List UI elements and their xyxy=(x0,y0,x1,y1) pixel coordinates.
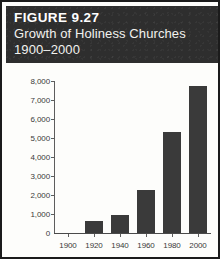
y-axis-tick: 0 xyxy=(2,228,58,239)
x-axis-tick-label: 1940 xyxy=(107,240,133,251)
y-axis-tick-mark xyxy=(51,157,55,158)
y-axis-tick-label: 2,000 xyxy=(30,190,50,201)
y-axis-tick-mark xyxy=(51,119,55,120)
x-axis-tick-label: 1980 xyxy=(159,240,185,251)
bar xyxy=(111,215,128,233)
y-axis-tick: 6,000 xyxy=(2,114,58,125)
y-axis-tick-label: 0 xyxy=(46,228,50,239)
y-axis-tick: 3,000 xyxy=(2,171,58,182)
y-axis-tick: 1,000 xyxy=(2,209,58,220)
figure-caption-band: FIGURE 9.27 Growth of Holiness Churches … xyxy=(6,6,218,63)
y-axis-tick-mark xyxy=(51,81,55,82)
y-axis-tick-label: 7,000 xyxy=(30,95,50,106)
y-axis-tick: 8,000 xyxy=(2,76,58,87)
x-axis-tick-mark xyxy=(146,234,147,237)
y-axis-tick: 7,000 xyxy=(2,95,58,106)
x-axis-tick-label: 2000 xyxy=(185,240,211,251)
x-axis-line xyxy=(54,233,211,234)
y-axis-tick-label: 4,000 xyxy=(30,152,50,163)
y-axis-tick-mark xyxy=(51,195,55,196)
x-axis-tick-mark xyxy=(94,234,95,237)
y-axis-tick-mark xyxy=(51,176,55,177)
bar xyxy=(189,86,206,233)
x-axis-tick-label: 1900 xyxy=(55,240,81,251)
y-axis-tick-label: 5,000 xyxy=(30,133,50,144)
bar-chart-plot: 01,0002,0003,0004,0005,0006,0007,0008,00… xyxy=(2,64,218,257)
x-axis-tick-mark xyxy=(120,234,121,237)
y-axis-tick: 4,000 xyxy=(2,152,58,163)
x-axis-tick-mark xyxy=(68,234,69,237)
y-axis-tick-mark xyxy=(51,214,55,215)
bar xyxy=(163,132,180,233)
y-axis-tick-mark xyxy=(51,100,55,101)
x-axis-tick-label: 1960 xyxy=(133,240,159,251)
figure-caption-line-1: Growth of Holiness Churches xyxy=(14,26,218,42)
x-axis-tick-label: 1920 xyxy=(81,240,107,251)
x-axis-tick-mark xyxy=(172,234,173,237)
y-axis-tick: 2,000 xyxy=(2,190,58,201)
y-axis-tick-mark xyxy=(51,138,55,139)
x-axis-tick-mark xyxy=(198,234,199,237)
y-axis-tick-label: 6,000 xyxy=(30,114,50,125)
figure-number-label: FIGURE 9.27 xyxy=(14,10,218,26)
bar xyxy=(85,221,102,233)
y-axis-tick-label: 8,000 xyxy=(30,76,50,87)
y-axis-tick-label: 3,000 xyxy=(30,171,50,182)
bar xyxy=(137,190,154,233)
figure-caption-line-2: 1900–2000 xyxy=(14,42,218,58)
y-axis-tick-label: 1,000 xyxy=(30,209,50,220)
figure-container: FIGURE 9.27 Growth of Holiness Churches … xyxy=(0,0,220,259)
y-axis-tick: 5,000 xyxy=(2,133,58,144)
